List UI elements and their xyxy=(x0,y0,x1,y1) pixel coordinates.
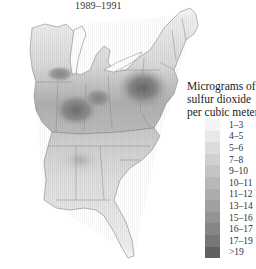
legend-item: 7–8 xyxy=(205,154,253,166)
legend-title-line-1: Micrograms of xyxy=(187,80,256,93)
legend-item: 16–17 xyxy=(205,223,253,235)
legend-swatch xyxy=(205,212,220,224)
legend-label: 17–19 xyxy=(229,236,253,246)
legend-swatch xyxy=(205,247,220,259)
legend-item: 4–5 xyxy=(205,131,253,143)
legend-swatch xyxy=(205,223,220,235)
legend-swatch xyxy=(205,131,220,143)
legend-title: Micrograms of sulfur dioxide per cubic m… xyxy=(187,80,256,119)
legend-label: 9–10 xyxy=(229,166,248,176)
legend-swatch xyxy=(205,189,220,201)
legend-item: 15–16 xyxy=(205,212,253,224)
legend-label: 13–14 xyxy=(229,201,253,211)
legend-swatch xyxy=(205,235,220,247)
legend-label: 10–11 xyxy=(229,178,252,188)
legend-swatch xyxy=(205,165,220,177)
legend-item: 1–3 xyxy=(205,119,253,131)
legend-swatch xyxy=(205,154,220,166)
legend-swatch xyxy=(205,177,220,189)
legend-swatch xyxy=(205,142,220,154)
legend-title-line-3: per cubic meter xyxy=(187,106,256,119)
legend-item: 17–19 xyxy=(205,235,253,247)
legend-title-line-2: sulfur dioxide xyxy=(187,93,256,106)
legend-swatch xyxy=(205,119,220,131)
legend-label: >19 xyxy=(229,247,244,257)
legend-swatch xyxy=(205,200,220,212)
legend-item: 13–14 xyxy=(205,200,253,212)
legend-item: >19 xyxy=(205,247,253,259)
legend-label: 15–16 xyxy=(229,213,253,223)
legend-item: 9–10 xyxy=(205,165,253,177)
legend-label: 7–8 xyxy=(229,155,243,165)
legend-label: 11–12 xyxy=(229,189,252,199)
legend: 1–34–55–67–89–1010–1111–1213–1415–1616–1… xyxy=(205,119,253,258)
legend-label: 4–5 xyxy=(229,131,243,141)
legend-item: 5–6 xyxy=(205,142,253,154)
legend-item: 11–12 xyxy=(205,189,253,201)
legend-label: 5–6 xyxy=(229,143,243,153)
legend-label: 1–3 xyxy=(229,120,243,130)
legend-item: 10–11 xyxy=(205,177,253,189)
legend-label: 16–17 xyxy=(229,224,253,234)
